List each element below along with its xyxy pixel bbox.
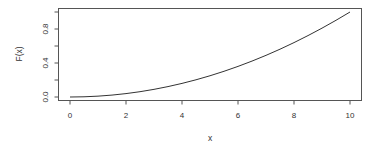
x-tick-label: 8	[292, 111, 297, 120]
series-layer	[70, 12, 350, 97]
series-line-f-x-	[70, 12, 350, 97]
y-tick-label: 0.4	[41, 57, 50, 69]
x-tick-label: 10	[346, 111, 355, 120]
chart: 0246810 0.00.40.8 x F(x)	[0, 0, 378, 150]
x-axis: 0246810	[68, 101, 355, 121]
x-tick-label: 2	[124, 111, 129, 120]
plot-box	[59, 9, 362, 101]
y-axis-label: F(x)	[14, 46, 24, 61]
x-tick-label: 4	[180, 111, 185, 120]
x-axis-label: x	[208, 133, 213, 143]
y-tick-label: 0.0	[41, 91, 50, 103]
x-tick-label: 6	[236, 111, 241, 120]
y-axis: 0.00.40.8	[41, 12, 59, 103]
x-tick-label: 0	[68, 111, 73, 120]
y-tick-label: 0.8	[41, 23, 50, 35]
